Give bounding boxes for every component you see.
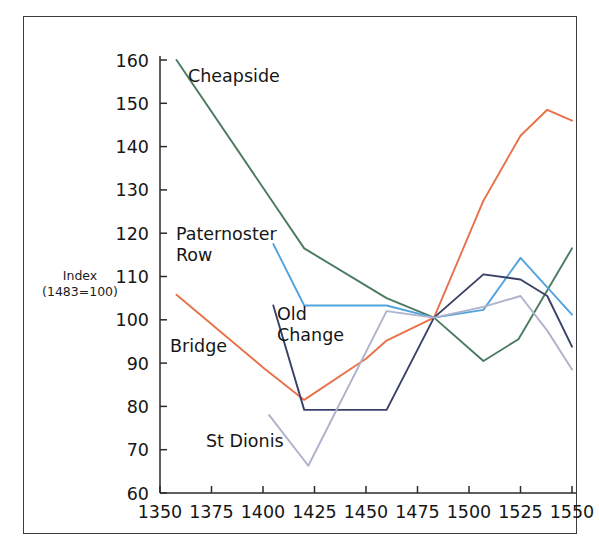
y-tick-label: 150 — [116, 94, 149, 114]
x-tick-label: 1500 — [447, 502, 492, 522]
y-tick-label: 70 — [127, 440, 149, 460]
x-tick-label: 1475 — [395, 502, 440, 522]
y-tick-label: 60 — [127, 484, 149, 504]
axes-group — [160, 56, 576, 493]
series-line-cheapside — [176, 60, 572, 361]
series-line-st-dionis — [269, 296, 572, 466]
series-label-paternoster-row-2: Row — [176, 245, 212, 265]
y-tick-label: 120 — [116, 224, 149, 244]
series-label-paternoster-row-1: Paternoster — [176, 224, 278, 244]
series-line-bridge — [176, 110, 572, 400]
x-tick-label: 1425 — [292, 502, 337, 522]
series-line-paternoster-row — [273, 244, 572, 318]
y-tick-label: 130 — [116, 180, 149, 200]
x-tick-label: 1450 — [344, 502, 389, 522]
x-tick-label: 1350 — [138, 502, 183, 522]
y-tick-label: 100 — [116, 310, 149, 330]
series-label-st-dionis: St Dionis — [206, 431, 284, 451]
y-tick-label: 80 — [127, 397, 149, 417]
figure-container: Index (1483=100) 60708090100110120130140… — [0, 0, 599, 551]
x-tick-label: 1550 — [550, 502, 595, 522]
y-tick-label: 140 — [116, 137, 149, 157]
line-chart-plot: 60708090100110120130140150160 1350137514… — [0, 0, 599, 551]
series-label-old-change-2: Change — [277, 325, 344, 345]
y-tick-label: 90 — [127, 354, 149, 374]
x-tick-label: 1375 — [189, 502, 234, 522]
y-tick-label: 110 — [116, 267, 149, 287]
series-label-old-change-1: Old — [277, 304, 307, 324]
y-tick-label: 160 — [116, 51, 149, 71]
x-tick-label: 1525 — [498, 502, 543, 522]
data-series-group — [176, 60, 572, 466]
x-tick-label: 1400 — [241, 502, 286, 522]
x-axis-ticks: 135013751400142514501475150015251550 — [138, 486, 595, 522]
series-label-cheapside: Cheapside — [188, 66, 280, 86]
series-label-bridge: Bridge — [170, 336, 227, 356]
